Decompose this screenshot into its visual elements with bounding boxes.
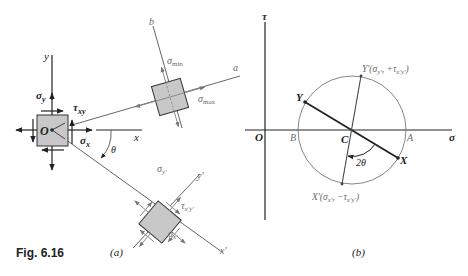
sigma-y-label: σy <box>36 89 46 104</box>
point-C-label: C <box>341 133 349 145</box>
tau-x-prime-y-prime-label: τx'y' <box>181 200 194 213</box>
tau-xy-label: τxy <box>73 101 86 116</box>
x-axis-label: x <box>133 131 139 143</box>
theta-arc <box>101 130 111 158</box>
sigma-min-label: σmin <box>167 55 183 68</box>
y-axis-label: y <box>43 50 49 62</box>
tau-axis-label: τ <box>262 10 268 22</box>
two-theta-label: 2θ <box>356 157 366 168</box>
theta-label: θ <box>111 144 116 155</box>
sigma-axis-label: σ <box>449 131 456 143</box>
sigma-max-arrow-left <box>135 101 155 107</box>
figure-6-16: y x a b x' y' θ O <box>0 0 468 276</box>
panel-b-mohr-circle: τ σ O 2θ B A C Y X Y'(σy', +τx'y') X'(σx… <box>245 10 456 259</box>
x-prime-axis-label: x' <box>219 245 227 256</box>
subfigure-a-label: (a) <box>110 246 123 259</box>
sigma-x-prime-arrow-left <box>135 201 149 213</box>
origin-label: O <box>255 131 263 143</box>
point-Y-label: Y <box>296 91 304 103</box>
point-X-label: X <box>399 154 408 166</box>
point-A-label: A <box>406 132 414 143</box>
original-stress-element: O σy τxy σx <box>16 89 92 170</box>
a-axis-label: a <box>233 62 238 73</box>
subfigure-b-label: (b) <box>352 246 365 259</box>
point-B-label: B <box>290 132 296 143</box>
point-Y-prime-label: Y'(σy', +τx'y') <box>362 64 409 76</box>
b-axis-label: b <box>149 16 154 27</box>
sigma-y-prime-label: σy' <box>157 163 167 176</box>
sigma-max-arrow-right <box>184 87 204 93</box>
figure-caption: Fig. 6.16 <box>16 246 64 260</box>
point-X-prime-label: X'(σx', −τx'y') <box>311 192 359 204</box>
y-prime-axis-label: y' <box>196 170 204 181</box>
sigma-x-label: σx <box>80 134 90 149</box>
rotated-stress-element <box>114 176 206 267</box>
panel-a: y x a b x' y' θ O <box>16 16 240 268</box>
origin-label: O <box>40 124 49 138</box>
sigma-max-label: σmax <box>198 93 215 106</box>
two-theta-arc <box>348 144 375 156</box>
y-prime-axis-line <box>170 174 200 206</box>
x-prime-axis-line <box>58 134 222 252</box>
